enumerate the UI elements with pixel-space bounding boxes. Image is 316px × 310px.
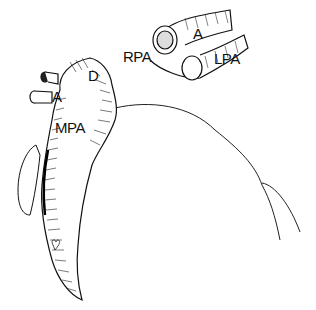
label-a-main: A (52, 89, 62, 104)
atrial-appendage (18, 145, 40, 215)
label-a-inset: A (193, 26, 203, 41)
diagram-canvas: D A MPA RPA A LPA (0, 0, 316, 310)
label-mpa: MPA (55, 120, 85, 135)
heart-outline (115, 104, 300, 240)
label-rpa: RPA (123, 49, 151, 64)
heart-vessels-illustration (0, 0, 316, 310)
label-d: D (88, 68, 98, 83)
inset-vessels (150, 10, 248, 80)
label-lpa: LPA (214, 51, 240, 66)
